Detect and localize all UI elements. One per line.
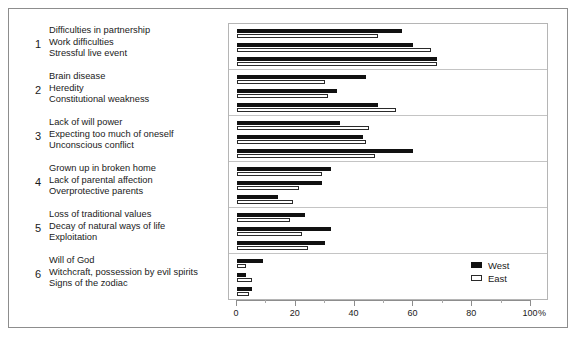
- category-label: Expecting too much of oneself: [49, 129, 225, 141]
- x-tick-label: 20: [290, 308, 300, 319]
- category-label: Overprotective parents: [49, 186, 225, 198]
- bar-pair: [237, 241, 531, 252]
- group-label-lines: Grown up in broken homeLack of parental …: [49, 163, 225, 198]
- bar-pair: [237, 43, 531, 54]
- category-label: Signs of the zodiac: [49, 278, 225, 290]
- bar-west: [237, 259, 263, 263]
- bar-east: [237, 292, 249, 296]
- legend-swatch-west: [471, 262, 482, 268]
- bar-pair: [237, 167, 531, 178]
- x-tick-minor: [265, 300, 266, 303]
- bar-west: [237, 227, 331, 231]
- bar-pair: [237, 57, 531, 68]
- group-number: 6: [27, 268, 41, 280]
- x-tick-minor: [442, 300, 443, 303]
- bar-pair: [237, 287, 531, 298]
- bar-pair: [237, 89, 531, 100]
- bar-pair: [237, 149, 531, 160]
- x-tick-major: [236, 300, 237, 306]
- category-label: Witchcraft, possession by evil spirits: [49, 267, 225, 279]
- x-tick-major: [471, 300, 472, 306]
- bar-west: [237, 213, 305, 217]
- category-label: Lack of will power: [49, 117, 225, 129]
- group-number: 3: [27, 130, 41, 142]
- bar-east: [237, 140, 366, 144]
- legend-label: East: [488, 272, 507, 285]
- x-tick-major: [295, 300, 296, 306]
- group-label-lines: Lack of will powerExpecting too much of …: [49, 117, 225, 152]
- category-label: Work difficulties: [49, 37, 225, 49]
- bar-west: [237, 75, 366, 79]
- bar-east: [237, 172, 322, 176]
- bar-pair: [237, 227, 531, 238]
- legend-label: West: [488, 259, 509, 272]
- bar-east: [237, 200, 293, 204]
- bar-east: [237, 278, 252, 282]
- category-group-5: 5Loss of traditional valuesDecay of natu…: [9, 207, 225, 253]
- bar-group-1: [229, 24, 547, 70]
- bar-west: [237, 273, 246, 277]
- x-tick-minor: [383, 300, 384, 303]
- bar-pair: [237, 195, 531, 206]
- bar-east: [237, 108, 396, 112]
- category-label: Stressful live event: [49, 48, 225, 60]
- bar-west: [237, 103, 378, 107]
- bar-east: [237, 94, 328, 98]
- group-number: 2: [27, 84, 41, 96]
- category-label: Exploitation: [49, 232, 225, 244]
- bar-pair: [237, 213, 531, 224]
- category-label: Constitutional weakness: [49, 94, 225, 106]
- category-label: Lack of parental affection: [49, 175, 225, 187]
- x-tick-label: 60: [407, 308, 417, 319]
- bar-group-5: [229, 208, 547, 254]
- x-tick-major: [530, 300, 531, 306]
- group-label-lines: Will of GodWitchcraft, possession by evi…: [49, 255, 225, 290]
- bar-west: [237, 181, 322, 185]
- category-label: Will of God: [49, 255, 225, 267]
- bar-groups-layer: [229, 24, 547, 299]
- bar-east: [237, 34, 378, 38]
- x-tick-label: 80: [466, 308, 476, 319]
- category-label-column: 1Difficulties in partnershipWork difficu…: [9, 9, 225, 329]
- category-label: Heredity: [49, 83, 225, 95]
- category-group-6: 6Will of GodWitchcraft, possession by ev…: [9, 253, 225, 299]
- category-label: Grown up in broken home: [49, 163, 225, 175]
- bar-east: [237, 62, 437, 66]
- legend-item-east: East: [471, 272, 533, 285]
- legend-item-west: West: [471, 259, 533, 272]
- group-label-lines: Brain diseaseHeredityConstitutional weak…: [49, 71, 225, 106]
- bar-pair: [237, 181, 531, 192]
- bar-west: [237, 57, 437, 61]
- x-tick-major: [354, 300, 355, 306]
- bar-west: [237, 43, 413, 47]
- group-number: 4: [27, 176, 41, 188]
- bar-east: [237, 80, 325, 84]
- bar-west: [237, 89, 337, 93]
- category-label: Brain disease: [49, 71, 225, 83]
- bar-east: [237, 126, 369, 130]
- chart-legend: WestEast: [471, 259, 533, 285]
- bar-pair: [237, 135, 531, 146]
- x-tick-minor: [501, 300, 502, 303]
- group-label-lines: Difficulties in partnershipWork difficul…: [49, 25, 225, 60]
- bar-pair: [237, 121, 531, 132]
- category-group-1: 1Difficulties in partnershipWork difficu…: [9, 23, 225, 69]
- group-label-lines: Loss of traditional valuesDecay of natur…: [49, 209, 225, 244]
- bar-pair: [237, 75, 531, 86]
- bar-east: [237, 48, 431, 52]
- category-group-4: 4Grown up in broken homeLack of parental…: [9, 161, 225, 207]
- x-axis: 020406080100%: [228, 300, 548, 330]
- category-label: Unconscious conflict: [49, 140, 225, 152]
- category-label: Loss of traditional values: [49, 209, 225, 221]
- group-number: 1: [27, 38, 41, 50]
- chart-figure: 1Difficulties in partnershipWork difficu…: [8, 8, 568, 328]
- bar-group-3: [229, 116, 547, 162]
- bar-east: [237, 218, 290, 222]
- bar-west: [237, 241, 325, 245]
- bar-east: [237, 232, 302, 236]
- x-tick-minor: [324, 300, 325, 303]
- bar-west: [237, 287, 252, 291]
- x-tick-label: 40: [349, 308, 359, 319]
- category-label: Difficulties in partnership: [49, 25, 225, 37]
- bar-east: [237, 186, 299, 190]
